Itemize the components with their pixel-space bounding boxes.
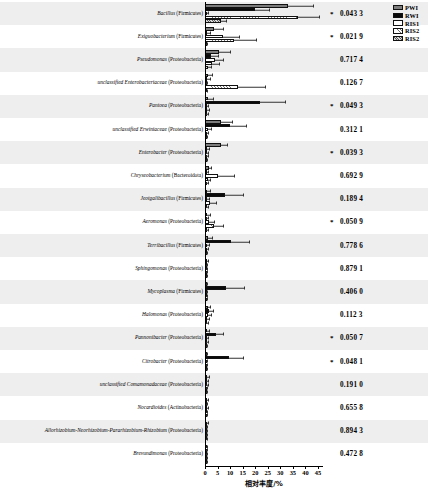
taxon-name: Pseudomonas (Proteobacteria) (137, 57, 203, 63)
error-bar-cap (207, 252, 208, 255)
taxon-phylum: (Proteobacteria) (167, 265, 203, 271)
taxon-phylum: (Actinobacteria) (166, 404, 203, 410)
taxon-label-cell: Mycoplasma (Firmicutes) (0, 280, 203, 303)
error-bar (260, 102, 285, 103)
error-bar-cap (207, 449, 208, 452)
taxon-phylum: (Firmicutes) (175, 33, 203, 39)
legend-item-ris2-4[interactable]: RIS2 (393, 35, 419, 42)
error-bar-cap (249, 240, 250, 243)
taxon-genus: Chryseobacterium (131, 172, 171, 178)
taxon-label-cell: Jeotgalibacillus (Firmicutes) (0, 188, 203, 211)
taxon-phylum: (Firmicutes) (175, 10, 203, 16)
x-axis-tick-label: 35 (290, 469, 296, 476)
error-bar (223, 36, 239, 37)
error-bar-cap (208, 248, 209, 251)
legend-item-pwi-0[interactable]: PWI (393, 4, 419, 11)
error-bar-cap (210, 178, 211, 181)
error-bar-cap (239, 35, 240, 38)
taxon-row: Nocardioides (Actinobacteria)0.655 8 (0, 396, 428, 419)
x-axis-tick-label: 40 (302, 469, 308, 476)
error-bar-cap (223, 333, 224, 336)
taxon-genus: Aeromonas (143, 218, 167, 224)
taxon-label-cell: unclassified Erwiniaceae (Proteobacteria… (0, 118, 203, 141)
taxon-genus: Halomonas (142, 311, 167, 317)
taxon-phylum: (Proteobacteria) (167, 79, 203, 85)
taxon-phylum: (Firmicutes) (175, 195, 203, 201)
error-bar-cap (207, 267, 208, 270)
taxon-row: Citrobacter (Proteobacteria)*0.048 1 (0, 350, 428, 373)
error-bar-cap (244, 287, 245, 290)
x-axis-tick-label: 30 (277, 469, 283, 476)
error-bar-cap (213, 310, 214, 313)
taxon-bar-group (205, 420, 323, 443)
error-bar (225, 195, 243, 196)
significance-star: * (330, 334, 334, 342)
error-bar-cap (208, 337, 209, 340)
error-bar (255, 9, 269, 10)
error-bar-cap (207, 159, 208, 162)
bar-rect (205, 286, 226, 290)
p-value: 0.049 3 (340, 102, 363, 110)
legend-item-rwi-1[interactable]: RWI (393, 12, 419, 19)
error-bar-cap (210, 213, 211, 216)
p-value: 0.039 3 (340, 149, 363, 157)
error-bar-cap (208, 228, 209, 231)
error-bar-cap (207, 460, 208, 463)
taxon-bar-group (205, 95, 323, 118)
taxon-bar-group (205, 72, 323, 95)
taxon-genus: Enterobacter (139, 149, 167, 155)
y-axis-spine (205, 2, 206, 468)
taxon-label-cell: Exiguobacterium (Firmicutes) (0, 25, 203, 48)
taxon-phylum: (Proteobacteria) (167, 427, 203, 433)
taxon-row: Exiguobacterium (Firmicutes)*0.021 9 (0, 25, 428, 48)
error-bar-cap (208, 383, 209, 386)
taxon-bar-group (205, 118, 323, 141)
taxon-genus: Jeotgalibacillus (141, 195, 175, 201)
taxon-label-cell: Halomonas (Proteobacteria) (0, 304, 203, 327)
significance-star: * (330, 10, 334, 18)
p-value: 0.021 9 (340, 33, 363, 41)
taxon-name: Mycoplasma (Firmicutes) (147, 289, 203, 295)
legend-item-ris1-2[interactable]: RIS1 (393, 20, 419, 27)
bar-rect (205, 19, 221, 23)
bar-rect (205, 85, 238, 89)
error-bar-cap (207, 136, 208, 139)
taxon-bar-group (205, 164, 323, 187)
taxon-label-cell: unclassified Enterobacteriaceae (Proteob… (0, 72, 203, 95)
error-bar-cap (209, 317, 210, 320)
error-bar-cap (207, 403, 208, 406)
error-bar-cap (209, 376, 210, 379)
error-bar (214, 29, 223, 30)
taxon-row: Terribacillus (Firmicutes)0.778 6 (0, 234, 428, 257)
error-bar (234, 40, 257, 41)
taxon-genus: Brevundimonas (133, 450, 167, 456)
p-value: 0.043 3 (340, 10, 363, 18)
error-bar (215, 60, 223, 61)
taxon-phylum: (Proteobacteria) (167, 381, 203, 387)
error-bar-cap (207, 271, 208, 274)
error-bar-cap (207, 437, 208, 440)
error-bar-cap (207, 426, 208, 429)
taxon-phylum: (Proteobacteria) (167, 102, 203, 108)
error-bar-cap (207, 414, 208, 417)
error-bar-cap (209, 147, 210, 150)
error-bar-cap (207, 433, 208, 436)
legend-item-ris2-3[interactable]: RIS2 (393, 27, 419, 34)
taxon-name: Halomonas (Proteobacteria) (142, 312, 203, 318)
error-bar-cap (208, 205, 209, 208)
error-bar-cap (208, 379, 209, 382)
taxon-name: Exiguobacterium (Firmicutes) (138, 34, 203, 40)
p-value: 0.472 8 (340, 450, 363, 458)
taxon-bar-group (205, 2, 323, 25)
error-bar-cap (208, 105, 209, 108)
error-bar-cap (208, 155, 209, 158)
taxon-genus: Pseudomonas (137, 56, 167, 62)
taxon-bar-group (205, 396, 323, 419)
error-bar-cap (207, 82, 208, 85)
taxon-row: unclassified Enterobacteriaceae (Proteob… (0, 72, 428, 95)
error-bar-cap (211, 167, 212, 170)
bar-rect (205, 356, 229, 360)
taxon-label-cell: Terribacillus (Firmicutes) (0, 234, 203, 257)
legend-swatch-icon (393, 36, 403, 41)
error-bar (211, 56, 218, 57)
